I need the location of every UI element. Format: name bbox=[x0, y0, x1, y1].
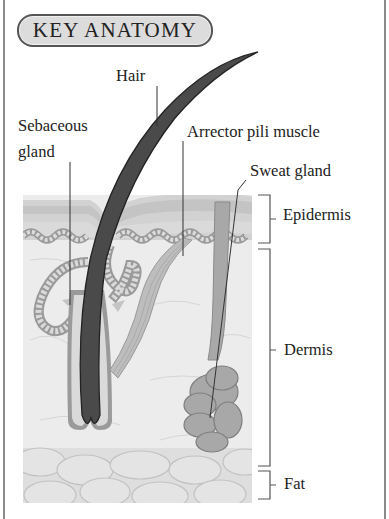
label-hair: Hair bbox=[116, 62, 145, 89]
label-sweat-gland: Sweat gland bbox=[250, 157, 331, 184]
label-dermis: Dermis bbox=[284, 336, 333, 363]
skin-cross-section bbox=[15, 193, 267, 510]
dermis-bracket bbox=[258, 249, 276, 466]
label-sebaceous-line1: Sebaceous bbox=[18, 112, 88, 139]
layer-brackets bbox=[258, 195, 276, 499]
label-fat: Fat bbox=[284, 470, 305, 497]
fat-bracket bbox=[258, 471, 276, 499]
label-epidermis: Epidermis bbox=[283, 201, 351, 228]
epidermis-bracket bbox=[258, 195, 276, 243]
label-arrector-pili: Arrector pili muscle bbox=[187, 118, 320, 145]
label-sebaceous-line2: gland bbox=[18, 138, 55, 165]
